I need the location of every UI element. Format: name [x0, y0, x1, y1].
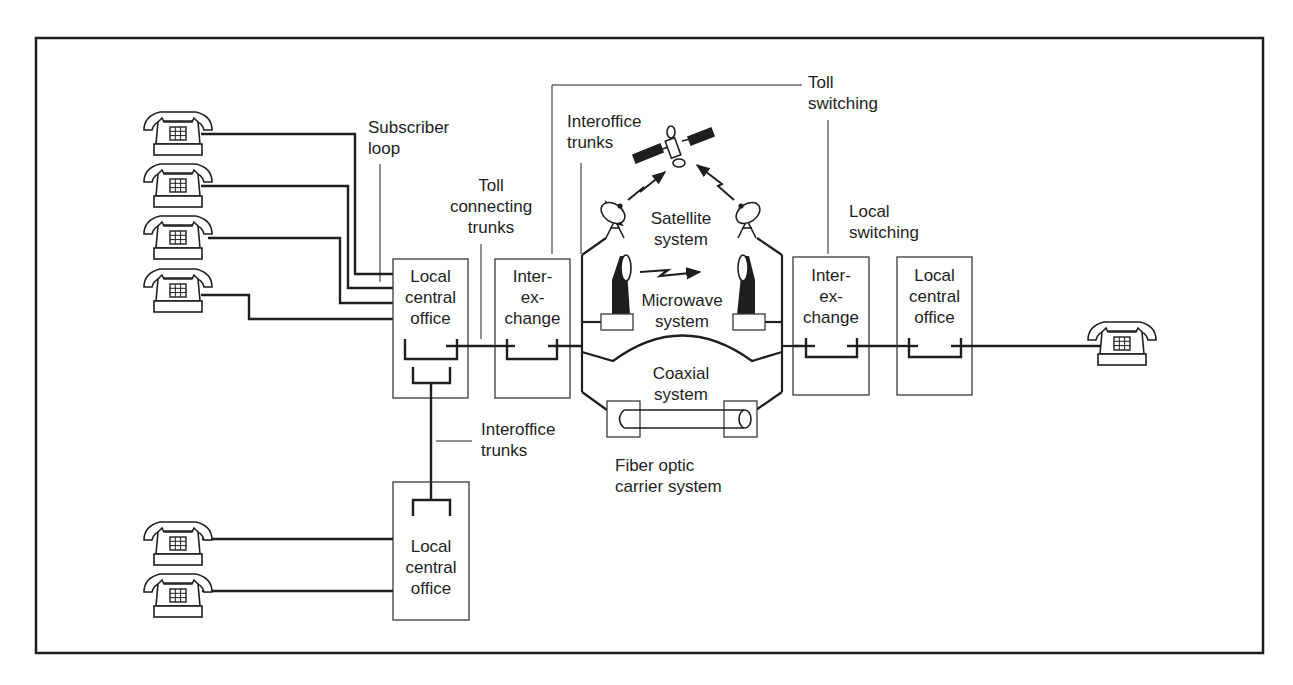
satellite-dish-icon — [597, 198, 629, 238]
uplink-arrow — [628, 172, 665, 200]
telephone-icon — [144, 216, 212, 259]
satellite-icon — [633, 126, 714, 167]
interoffice-trunks-bottom-label: Interoffice trunks — [481, 419, 555, 461]
toll-switching-label: Toll switching — [808, 72, 878, 114]
interexchange-right: Inter- ex- change — [793, 265, 869, 328]
local-office-bottom: Local central office — [393, 536, 469, 599]
telephone-icon — [144, 522, 212, 565]
telephone-icon — [144, 574, 212, 617]
satellite-dish-icon — [732, 198, 764, 238]
microwave-system-label: Microwave system — [622, 290, 742, 332]
telephone-icon — [1088, 322, 1156, 365]
satellite-system-label: Satellite system — [636, 208, 726, 250]
interexchange-left: Inter- ex- change — [495, 266, 570, 329]
interoffice-trunks-top-label: Interoffice trunks — [567, 111, 641, 153]
microwave-link-arrow — [640, 270, 700, 276]
telephone-icon — [144, 269, 212, 312]
downlink-arrow — [697, 165, 734, 200]
local-office-right: Local central office — [897, 265, 972, 328]
fiber-optic-cable-icon — [607, 401, 757, 437]
fiber-optic-label: Fiber optic carrier system — [615, 455, 722, 497]
coaxial-system-label: Coaxial system — [636, 363, 726, 405]
subscriber-loop-label: Subscriber loop — [368, 117, 449, 159]
local-office-left: Local central office — [393, 266, 468, 329]
toll-connecting-trunks-label: Toll connecting trunks — [446, 175, 536, 238]
local-switching-label: Local switching — [849, 201, 919, 243]
diagram-graphics — [0, 0, 1293, 685]
telephone-network-diagram: Subscriber loop Toll connecting trunks I… — [0, 0, 1293, 685]
